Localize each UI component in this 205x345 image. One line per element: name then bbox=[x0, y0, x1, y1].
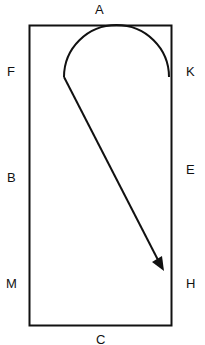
label-e: E bbox=[186, 163, 195, 176]
label-b: B bbox=[7, 171, 16, 184]
label-m: M bbox=[6, 277, 17, 290]
label-a: A bbox=[95, 3, 104, 16]
label-c: C bbox=[96, 333, 105, 345]
label-h: H bbox=[186, 277, 195, 290]
rectangle-field bbox=[30, 26, 172, 326]
label-f: F bbox=[7, 65, 15, 78]
label-k: K bbox=[186, 65, 195, 78]
arrow-line bbox=[64, 77, 158, 260]
semicircle-arc bbox=[64, 25, 169, 77]
diagram-canvas bbox=[0, 0, 205, 345]
